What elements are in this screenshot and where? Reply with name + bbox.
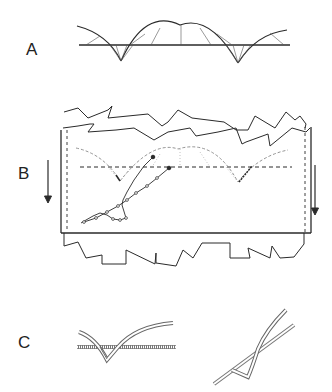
panel-b-figure <box>45 106 319 266</box>
panel-c-left-detail <box>77 323 176 360</box>
panel-a-figure <box>77 21 290 63</box>
panel-c-right-detail <box>214 310 294 384</box>
diagram-canvas <box>0 0 332 392</box>
